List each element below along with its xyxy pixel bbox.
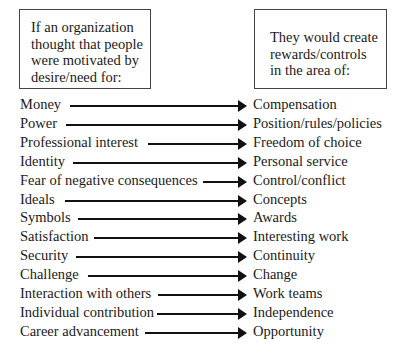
reward-label: Work teams [253,285,322,302]
needs-header-line: If an organization [31,19,150,36]
rewards-header-box: They would create rewards/controls in th… [254,9,387,89]
right-arrow-icon [66,124,244,126]
need-label: Identity [20,153,65,170]
mapping-row: Fear of negative consequencesControl/con… [0,172,400,191]
right-arrow-icon [70,105,244,107]
reward-label: Interesting work [253,228,348,245]
right-arrow-icon [203,181,244,183]
need-label: Interaction with others [20,285,151,302]
need-label: Power [20,115,57,132]
reward-label: Compensation [253,96,337,113]
reward-label: Continuity [253,247,315,264]
mapping-row: SymbolsAwards [0,209,400,228]
rewards-header-line: in the area of: [270,62,386,79]
right-arrow-icon [145,332,244,334]
right-arrow-icon [65,200,244,202]
reward-label: Independence [253,304,334,321]
reward-label: Freedom of choice [253,134,362,151]
mapping-row: Professional interestFreedom of choice [0,134,400,153]
needs-header-box: If an organization thought that people w… [19,9,151,89]
need-label: Symbols [20,209,71,226]
right-arrow-icon [94,237,244,239]
mapping-row: IdealsConcepts [0,191,400,210]
need-label: Security [20,247,68,264]
need-label: Individual contribution [20,304,154,321]
need-label: Satisfaction [20,228,88,245]
need-label: Challenge [20,266,79,283]
rewards-header-line: They would create [270,29,386,46]
right-arrow-icon [73,162,244,164]
reward-label: Awards [253,209,297,226]
mapping-row: SecurityContinuity [0,247,400,266]
right-arrow-icon [76,256,244,258]
mapping-row: IdentityPersonal service [0,153,400,172]
right-arrow-icon [88,275,244,277]
reward-label: Change [253,266,297,283]
need-label: Ideals [20,191,55,208]
mapping-row: SatisfactionInteresting work [0,228,400,247]
reward-label: Position/rules/policies [253,115,382,132]
mapping-row: PowerPosition/rules/policies [0,115,400,134]
reward-label: Control/conflict [253,172,346,189]
right-arrow-icon [157,313,244,315]
reward-label: Opportunity [253,323,324,340]
need-label: Career advancement [20,323,139,340]
needs-header-line: were motivated by [31,52,150,69]
right-arrow-icon [78,218,244,220]
mapping-row: Interaction with othersWork teams [0,285,400,304]
mapping-row: Individual contributionIndependence [0,304,400,323]
mapping-row: ChallengeChange [0,266,400,285]
right-arrow-icon [148,143,244,145]
reward-label: Concepts [253,191,307,208]
right-arrow-icon [158,294,244,296]
mapping-row: Career advancementOpportunity [0,323,400,342]
reward-label: Personal service [253,153,348,170]
needs-header-line: thought that people [31,36,150,53]
need-label: Professional interest [20,134,138,151]
need-label: Money [20,96,61,113]
need-label: Fear of negative consequences [20,172,198,189]
mapping-row: MoneyCompensation [0,96,400,115]
rewards-header-line: rewards/controls [270,46,386,63]
needs-header-line: desire/need for: [31,69,150,86]
